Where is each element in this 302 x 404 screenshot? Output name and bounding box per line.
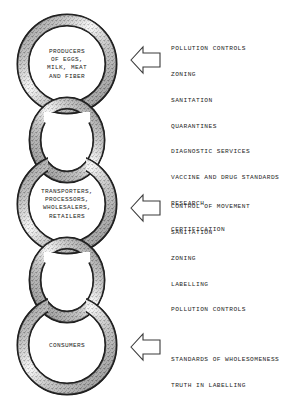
callout-item: SANITATION: [171, 97, 279, 106]
callout-item: ZONING: [171, 255, 250, 264]
callout-list-middlemen-functions: CONTROL OF MOVEMENT SANITATION ZONING LA…: [171, 186, 250, 332]
arrow-left-icon-producers: [130, 42, 164, 78]
callout-item: ZONING: [171, 71, 279, 80]
diagram-canvas: PRODUCERS OF EGGS, MILK, MEAT AND FIBER …: [0, 0, 302, 404]
callout-list-consumers-functions: STANDARDS OF WHOLESOMENESS TRUTH IN LABE…: [171, 339, 279, 404]
callout-item: SANITATION: [171, 229, 250, 238]
chain-link-consumers: [18, 296, 117, 395]
callout-item: CONTROL OF MOVEMENT: [171, 203, 250, 212]
callout-item: STANDARDS OF WHOLESOMENESS: [171, 356, 279, 365]
arrow-left-icon-middlemen: [130, 190, 164, 226]
callout-item: QUARANTINES: [171, 123, 279, 132]
callout-item: VACCINE AND DRUG STANDARDS: [171, 174, 279, 183]
callout-item: LABELLING: [171, 281, 250, 290]
callout-item: DIAGNOSTIC SERVICES: [171, 148, 279, 157]
callout-item: POLLUTION CONTROLS: [171, 306, 250, 315]
arrow-left-icon-consumers: [130, 329, 164, 365]
callout-item: POLLUTION CONTROLS: [171, 45, 279, 54]
callout-item: TRUTH IN LABELLING: [171, 382, 279, 391]
